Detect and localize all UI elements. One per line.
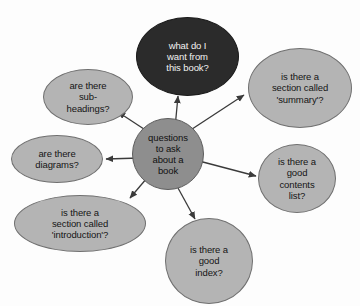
edge-section-summary [186, 95, 244, 133]
node-section-called-introduction-label: is there a section called 'introduction'… [48, 207, 113, 241]
edge-index [178, 188, 195, 219]
node-good-contents-list-label: is there a good contents list? [274, 156, 320, 201]
node-good-index-label: is there a good index? [186, 244, 232, 278]
mind-map-diagram: questions to ask about a book are there … [0, 0, 360, 306]
node-are-there-diagrams-label: are there diagrams? [31, 148, 82, 170]
node-sub-headings-label: are there sub- headings? [63, 80, 114, 114]
node-hub-questions-to-ask-about-a-book[interactable]: questions to ask about a book [132, 118, 204, 190]
node-section-called-introduction[interactable]: is there a section called 'introduction'… [14, 195, 146, 252]
node-good-contents-list[interactable]: is there a good contents list? [258, 144, 336, 213]
node-section-called-summary[interactable]: is there a section called 'summary'? [248, 48, 352, 128]
node-are-there-diagrams[interactable]: are there diagrams? [11, 135, 103, 183]
node-what-do-i-want-from-this-book[interactable]: what do I want from this book? [136, 17, 239, 96]
node-good-index[interactable]: is there a good index? [165, 218, 253, 304]
node-hub-label: questions to ask about a book [144, 132, 192, 177]
edge-contents-list [199, 161, 256, 176]
node-what-do-i-want-from-this-book-label: what do I want from this book? [162, 40, 212, 74]
node-sub-headings[interactable]: are there sub- headings? [43, 69, 133, 125]
node-section-called-summary-label: is there a section called 'summary'? [268, 71, 332, 105]
